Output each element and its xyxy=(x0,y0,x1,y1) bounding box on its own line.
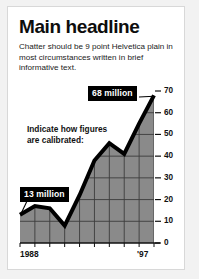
x-axis-end-label: '97 xyxy=(137,249,148,259)
y-axis-tick-label: 0 xyxy=(164,238,169,247)
x-axis-start-label: 1988 xyxy=(20,249,39,259)
y-axis-tick-label: 50 xyxy=(164,129,173,138)
chart-plot-area xyxy=(8,83,185,270)
y-axis-tick-label: 60 xyxy=(164,108,173,117)
y-axis-tick-label: 30 xyxy=(164,173,173,182)
callout-leader-high xyxy=(139,96,154,97)
chatter-text: Chatter should be 9 point Helvetica plai… xyxy=(19,42,179,74)
area-chart: 010203040506070 Indicate how figures are… xyxy=(8,83,185,270)
callout-badge-low: 13 million xyxy=(20,187,69,202)
callout-badge-high: 68 million xyxy=(88,86,137,101)
calibration-note: Indicate how figures are calibrated: xyxy=(27,124,117,146)
y-axis-tick-label: 10 xyxy=(164,216,173,225)
y-axis-tick-label: 20 xyxy=(164,195,173,204)
y-axis-tick-label: 40 xyxy=(164,151,173,160)
infographic-card: Main headline Chatter should be 9 point … xyxy=(7,6,185,270)
y-axis-tick-label: 70 xyxy=(164,86,173,95)
page-title: Main headline xyxy=(19,16,139,38)
